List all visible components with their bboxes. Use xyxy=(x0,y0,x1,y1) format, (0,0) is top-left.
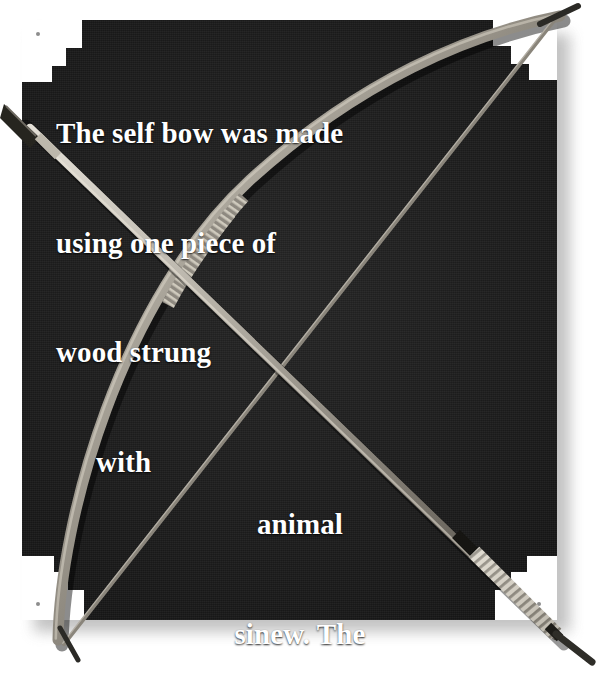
caption-bottom-block: animal sinew. The arrows had a metal tip… xyxy=(110,432,490,673)
artefact-photo-figure: The self bow was made using one piece of… xyxy=(0,0,613,673)
caption-top-line-3: wood strung xyxy=(56,334,343,371)
register-tick-bottom-left xyxy=(36,602,40,606)
corner-notch-top-right-step3 xyxy=(529,20,557,80)
caption-bottom-line-1: animal xyxy=(110,506,490,543)
caption-top-line-1: The self bow was made xyxy=(56,115,343,152)
caption-top-line-2: using one piece of xyxy=(56,225,343,262)
caption-bottom-line-2: sinew. The xyxy=(110,616,490,653)
arrow-nock-end xyxy=(556,634,592,662)
register-tick-bottom-right xyxy=(537,602,541,606)
register-tick-top-left xyxy=(36,32,40,36)
bow-lower-nock xyxy=(60,628,78,660)
corner-notch-bottom-right-step3 xyxy=(527,556,557,620)
corner-notch-top-left-step3 xyxy=(22,20,52,82)
corner-notch-bottom-left-step3 xyxy=(22,556,54,620)
